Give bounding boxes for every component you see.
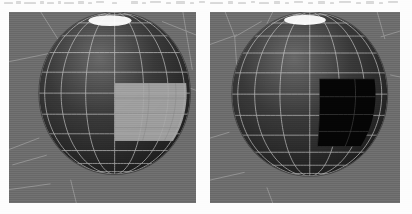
scan-artifact-mark (40, 1, 44, 4)
viewport-panel-left[interactable] (9, 12, 196, 203)
scan-artifact-mark (259, 2, 269, 4)
scan-artifact-mark (78, 1, 84, 4)
scan-artifact-strip (0, 0, 412, 12)
scan-artifact-mark (142, 2, 146, 4)
specular-highlight (88, 15, 131, 26)
scan-artifact-mark (176, 1, 185, 4)
scan-artifact-mark (228, 1, 233, 4)
scan-artifact-mark (16, 1, 21, 4)
scan-artifact-mark (388, 1, 398, 3)
scan-artifact-mark (356, 2, 361, 4)
scan-artifact-mark (190, 2, 194, 4)
scan-artifact-mark (339, 1, 351, 3)
figure-page (0, 0, 412, 214)
scan-artifact-mark (24, 2, 36, 4)
scan-artifact-mark (379, 2, 383, 4)
scan-artifact-mark (285, 2, 289, 4)
scan-artifact-mark (210, 2, 223, 4)
scan-artifact-mark (58, 1, 61, 4)
scan-artifact-mark (88, 2, 92, 4)
sphere-render-right (210, 12, 400, 203)
scan-artifact-mark (251, 1, 255, 3)
specular-highlight (284, 15, 326, 25)
scan-artifact-mark (166, 2, 171, 4)
scan-artifact-mark (308, 2, 313, 4)
scan-artifact-mark (330, 2, 334, 4)
scan-artifact-mark (47, 2, 54, 4)
scan-artifact-mark (366, 1, 374, 4)
scan-artifact-mark (64, 2, 74, 4)
scan-artifact-mark (112, 2, 117, 4)
scan-artifact-mark (131, 1, 138, 4)
sphere-render-left (9, 12, 196, 203)
scan-artifact-mark (199, 1, 205, 3)
scan-artifact-mark (294, 1, 303, 3)
scan-artifact-mark (4, 2, 13, 4)
scan-artifact-mark (318, 1, 325, 4)
scan-artifact-mark (238, 2, 246, 4)
scan-artifact-mark (96, 1, 104, 3)
scan-artifact-mark (274, 1, 280, 4)
viewport-panel-right[interactable] (210, 12, 400, 203)
scan-artifact-mark (150, 1, 161, 3)
